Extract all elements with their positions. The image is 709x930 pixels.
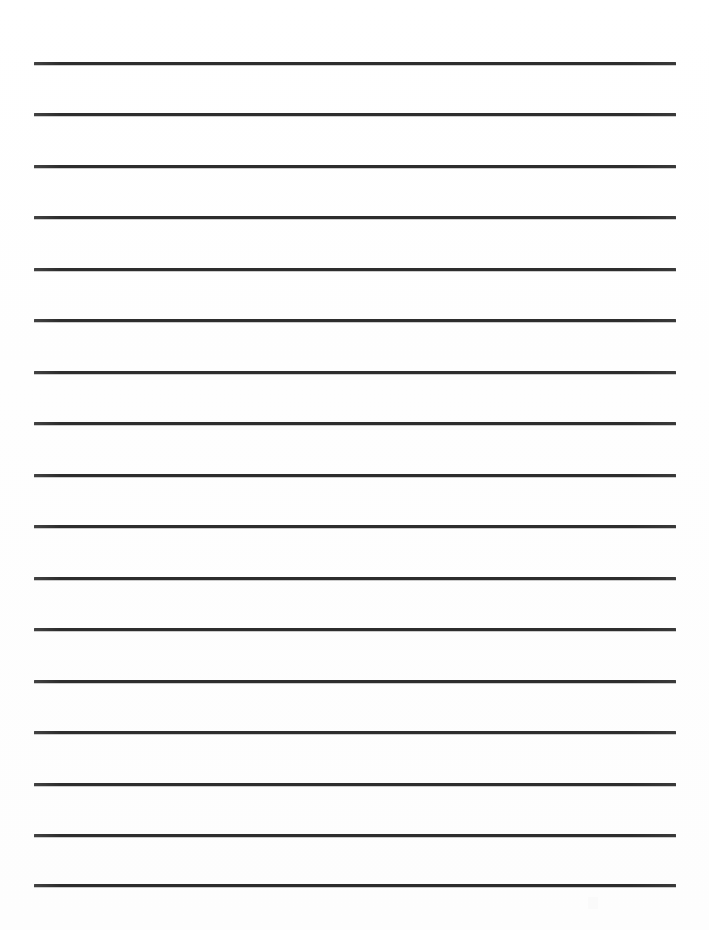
scan-artifact	[588, 897, 598, 909]
rule-line-13	[34, 680, 676, 683]
rule-line-12	[34, 628, 676, 631]
rule-line-16	[34, 834, 676, 837]
rule-line-2	[34, 113, 676, 116]
rule-line-4	[34, 216, 676, 219]
rule-line-11	[34, 577, 676, 580]
rule-line-3	[34, 165, 676, 168]
rule-line-17	[34, 884, 676, 887]
rule-line-1	[34, 62, 676, 65]
paper-texture	[0, 0, 709, 930]
rule-line-6	[34, 319, 676, 322]
lined-paper-page	[0, 0, 709, 930]
rule-line-9	[34, 474, 676, 477]
rule-line-10	[34, 525, 676, 528]
rule-line-14	[34, 731, 676, 734]
rule-line-5	[34, 268, 676, 271]
rule-line-7	[34, 371, 676, 374]
rule-line-8	[34, 422, 676, 425]
rule-line-15	[34, 783, 676, 786]
